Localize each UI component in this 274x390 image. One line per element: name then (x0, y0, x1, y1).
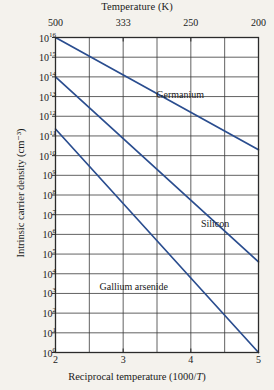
y-tick-exponent: 11 (49, 129, 56, 137)
y-tick-base: 10 (39, 71, 49, 82)
y-tick-base: 10 (43, 249, 53, 260)
x-axis-title-close: ) (202, 371, 206, 382)
y-tick-base: 10 (43, 288, 53, 299)
y-tick-label: 108 (43, 190, 57, 201)
y-tick-exponent: 1 (53, 326, 57, 334)
y-tick-exponent: 4 (53, 267, 57, 275)
y-tick-exponent: 0 (53, 346, 57, 354)
y-tick-label: 104 (43, 268, 57, 279)
y-tick-base: 10 (39, 111, 49, 122)
y-tick-base: 10 (39, 91, 49, 102)
y-tick-exponent: 15 (49, 50, 56, 58)
y-tick-base: 10 (43, 170, 53, 181)
y-tick-label: 1016 (39, 32, 56, 43)
y-tick-label: 1011 (39, 130, 56, 141)
x-tick-label: 5 (256, 354, 261, 365)
y-tick-base: 10 (39, 150, 49, 161)
series-label-gallium-arsenide: Gallium arsenide (99, 281, 168, 292)
x-tick-label: 2 (53, 354, 58, 365)
y-tick-base: 10 (43, 347, 53, 358)
y-tick-label: 107 (43, 209, 57, 220)
y-axis-title: Intrinsic carrier density (cm⁻³) (14, 43, 26, 343)
y-tick-base: 10 (43, 268, 53, 279)
y-tick-base: 10 (43, 209, 53, 220)
y-tick-label: 101 (43, 327, 57, 338)
y-tick-label: 1013 (39, 91, 56, 102)
y-tick-base: 10 (39, 52, 49, 63)
y-tick-exponent: 5 (53, 247, 57, 255)
y-tick-exponent: 14 (49, 70, 56, 78)
intrinsic-carrier-density-chart: Temperature (K) 500333250200 10161015101… (0, 0, 274, 390)
y-tick-exponent: 2 (53, 306, 57, 314)
y-tick-exponent: 3 (53, 287, 57, 295)
series-label-silicon: Silicon (201, 218, 229, 229)
x-axis-title-text: Reciprocal temperature (1000/ (68, 371, 196, 382)
y-tick-exponent: 16 (49, 31, 56, 39)
y-tick-exponent: 8 (53, 188, 57, 196)
series-label-germanium: Germanium (156, 89, 204, 100)
x-tick-label: 3 (121, 354, 126, 365)
x-tick-label: 4 (188, 354, 193, 365)
y-tick-label: 105 (43, 249, 57, 260)
y-tick-exponent: 12 (49, 109, 56, 117)
y-tick-base: 10 (43, 308, 53, 319)
y-tick-base: 10 (39, 130, 49, 141)
y-tick-label: 1015 (39, 52, 56, 63)
y-tick-exponent: 7 (53, 208, 57, 216)
y-tick-exponent: 13 (49, 90, 56, 98)
y-tick-base: 10 (43, 327, 53, 338)
y-tick-base: 10 (43, 190, 53, 201)
y-tick-exponent: 9 (53, 168, 57, 176)
y-tick-base: 10 (43, 229, 53, 240)
y-tick-label: 1010 (39, 150, 56, 161)
y-tick-exponent: 10 (49, 149, 56, 157)
y-tick-label: 1012 (39, 111, 56, 122)
y-tick-label: 1014 (39, 71, 56, 82)
y-tick-label: 109 (43, 170, 57, 181)
x-axis-title: Reciprocal temperature (1000/T) (0, 371, 274, 382)
y-tick-label: 103 (43, 288, 57, 299)
y-tick-label: 102 (43, 308, 57, 319)
y-tick-base: 10 (39, 32, 49, 43)
y-tick-exponent: 6 (53, 228, 57, 236)
y-tick-label: 106 (43, 229, 57, 240)
